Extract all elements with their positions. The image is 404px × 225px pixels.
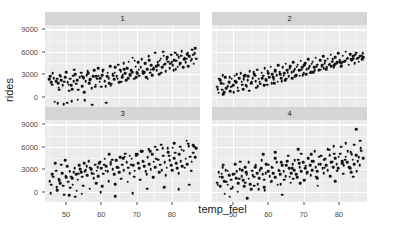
data-point — [90, 87, 93, 90]
data-point — [161, 66, 164, 69]
data-point — [361, 58, 364, 61]
y-axis-tick-mark — [42, 169, 45, 170]
data-point — [114, 183, 117, 186]
data-point — [225, 181, 228, 184]
data-point — [159, 59, 162, 62]
data-point — [173, 142, 176, 145]
data-point — [122, 62, 125, 65]
data-point — [97, 67, 100, 70]
data-point — [87, 72, 90, 75]
data-point — [50, 81, 53, 84]
data-point — [58, 89, 61, 92]
plot-area-2 — [212, 25, 367, 107]
data-point — [314, 57, 317, 60]
data-point — [128, 60, 131, 63]
data-point — [125, 79, 128, 82]
data-point — [51, 83, 54, 86]
data-point — [351, 158, 354, 161]
data-point — [147, 55, 150, 58]
data-point — [168, 159, 171, 162]
data-point — [281, 164, 284, 167]
data-point — [253, 184, 256, 187]
data-point — [232, 173, 235, 176]
data-point — [241, 83, 244, 86]
data-point — [237, 182, 240, 185]
data-point — [327, 169, 330, 172]
data-point — [257, 188, 260, 191]
plot-area-3 — [45, 120, 200, 202]
data-point — [288, 67, 291, 70]
data-point — [362, 157, 365, 160]
data-point — [153, 160, 156, 163]
data-point — [346, 161, 349, 164]
data-point — [110, 84, 113, 87]
data-point — [62, 184, 65, 187]
data-point — [74, 73, 77, 76]
data-point — [234, 163, 237, 166]
data-point — [152, 68, 155, 71]
data-point — [233, 91, 236, 94]
data-point — [308, 67, 311, 70]
gridline-major-vertical — [268, 120, 269, 202]
data-point — [81, 85, 84, 88]
data-point — [320, 154, 323, 157]
data-point — [239, 72, 242, 75]
data-point — [221, 166, 224, 169]
data-point — [272, 76, 275, 79]
data-point — [217, 92, 220, 95]
facet-panel-4: 4 — [212, 107, 367, 202]
data-point — [175, 162, 178, 165]
data-point — [147, 77, 150, 80]
plot-area-1 — [45, 25, 200, 107]
data-point — [267, 72, 270, 75]
data-point — [333, 64, 336, 67]
data-point — [284, 79, 287, 82]
data-point — [248, 70, 251, 73]
data-point — [338, 155, 341, 158]
data-point — [127, 77, 130, 80]
gridline-major-vertical — [101, 25, 102, 107]
data-point — [128, 73, 131, 76]
data-point — [353, 143, 356, 146]
data-point — [228, 81, 231, 84]
data-point — [316, 170, 319, 173]
y-axis-tick-labels-row-0: 0300060009000 — [8, 25, 42, 107]
gridline-minor-vertical — [119, 120, 120, 202]
data-point — [129, 172, 132, 175]
data-point — [298, 74, 301, 77]
data-point — [247, 75, 250, 78]
data-point — [276, 80, 279, 83]
data-point — [249, 183, 252, 186]
data-point — [291, 163, 294, 166]
facet-strip-label-2: 2 — [212, 12, 367, 25]
data-point — [256, 172, 259, 175]
data-point — [163, 186, 166, 189]
gridline-major-horizontal — [45, 97, 200, 98]
data-point — [98, 80, 101, 83]
data-point — [100, 86, 103, 89]
data-point — [121, 76, 124, 79]
data-point — [288, 175, 291, 178]
data-point — [105, 101, 108, 104]
data-point — [113, 173, 116, 176]
gridline-major-vertical — [101, 120, 102, 202]
data-point — [136, 153, 139, 156]
data-point — [240, 80, 243, 83]
data-point — [134, 59, 137, 62]
data-point — [220, 82, 223, 85]
data-point — [113, 71, 116, 74]
data-point — [299, 182, 302, 185]
x-axis-tick-labels-col-1: 50607080 — [212, 202, 367, 220]
gridline-minor-vertical — [251, 25, 252, 107]
data-point — [154, 146, 157, 149]
data-point — [191, 160, 194, 163]
y-axis-tick-labels-row-1: 0300060009000 — [8, 120, 42, 202]
data-point — [297, 158, 300, 161]
x-axis-tick-label: 60 — [264, 210, 272, 219]
data-point — [285, 164, 288, 167]
data-point — [355, 128, 358, 131]
y-axis-tick-mark — [42, 146, 45, 147]
data-point — [306, 171, 309, 174]
data-point — [65, 71, 68, 74]
facet-strip-label-3: 3 — [45, 107, 200, 120]
